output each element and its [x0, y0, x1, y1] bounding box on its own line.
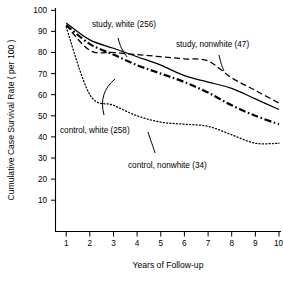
x-tick-label: 2 [88, 239, 93, 248]
y-tick-label: 40 [38, 133, 48, 142]
y-tick-label: 20 [38, 175, 48, 184]
survival-chart: 100 90 80 70 60 50 40 30 20 10 1 2 [0, 0, 283, 281]
chart-canvas: 100 90 80 70 60 50 40 30 20 10 1 2 [0, 0, 283, 281]
y-axis-title: Cumulative Case Survival Rate ( per 100 … [6, 39, 16, 200]
x-tick-label: 5 [159, 239, 164, 248]
x-tick-label: 10 [274, 239, 283, 248]
y-tick-label: 50 [38, 112, 48, 121]
x-axis-title: Years of Follow-up [133, 260, 204, 270]
series-line-study-nonwhite [66, 25, 279, 103]
x-tick-label: 9 [253, 239, 258, 248]
y-tick-label: 70 [38, 70, 48, 79]
y-tick-label: 60 [38, 91, 48, 100]
annotation-control-white: control, white (258) [60, 126, 130, 135]
y-tick-label: 30 [38, 154, 48, 163]
leader-control-white [102, 79, 115, 115]
x-tick-label: 3 [111, 239, 116, 248]
y-tick-label: 10 [38, 196, 48, 205]
leader-control-nonwhite [148, 132, 155, 153]
x-axis-tick-labels: 1 2 3 4 5 6 7 8 9 10 [64, 239, 283, 248]
x-tick-label: 7 [206, 239, 211, 248]
annotation-control-nonwhite: control, nonwhite (34) [128, 161, 207, 170]
annotation-study-white: study, white (256) [92, 20, 156, 29]
y-axis-tick-labels: 100 90 80 70 60 50 40 30 20 10 [33, 6, 47, 205]
annotation-study-nonwhite: study, nonwhite (47) [176, 40, 249, 49]
x-tick-label: 1 [64, 239, 69, 248]
y-axis-ticks [51, 10, 56, 200]
x-tick-label: 4 [135, 239, 140, 248]
x-tick-label: 6 [182, 239, 187, 248]
series-line-study-white [66, 23, 279, 110]
x-axis-ticks [66, 232, 279, 237]
y-tick-label: 100 [33, 6, 47, 15]
leader-study-white [118, 38, 127, 57]
y-tick-label: 80 [38, 48, 48, 57]
x-tick-label: 8 [229, 239, 234, 248]
y-tick-label: 90 [38, 27, 48, 36]
